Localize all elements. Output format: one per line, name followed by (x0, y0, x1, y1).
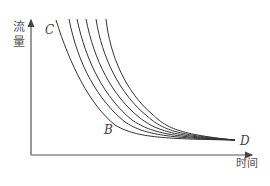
x-axis-label: 时间 (236, 158, 258, 170)
curve-2 (69, 19, 235, 140)
curve-5 (96, 19, 235, 140)
diagram-canvas (0, 0, 270, 186)
point-c-label: C (45, 24, 54, 36)
point-b-label: B (104, 124, 113, 136)
curve-3 (77, 19, 235, 140)
point-d-label: D (240, 135, 250, 147)
y-axis-label: 流量 (13, 20, 27, 50)
